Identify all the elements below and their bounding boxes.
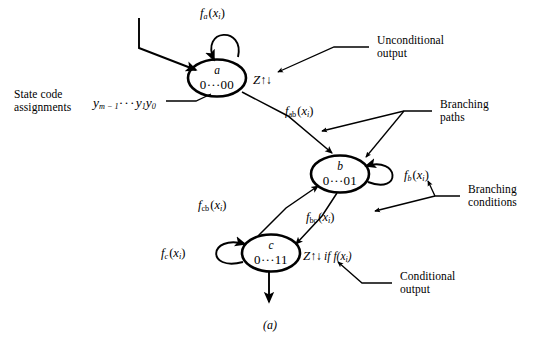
annotation-state-code-assignments-line1: State code bbox=[14, 88, 71, 101]
annotation-unconditional-output: Unconditional output bbox=[377, 34, 444, 60]
callout-line-conditional-output bbox=[338, 262, 392, 283]
callout-line-branching-paths-1 bbox=[322, 111, 432, 131]
state-code-var-dots: ··· bbox=[119, 95, 136, 110]
annotation-branching-paths: Branching paths bbox=[440, 98, 489, 124]
annotation-state-code-assignments: State code assignments bbox=[14, 88, 71, 114]
annotation-unconditional-output-line2: output bbox=[377, 47, 444, 60]
annotation-conditional-output: Conditional output bbox=[400, 270, 455, 296]
annotation-conditional-output-line1: Conditional bbox=[400, 270, 455, 283]
state-code-var-sub-last: 0 bbox=[152, 102, 156, 111]
annotation-unconditional-output-line1: Unconditional bbox=[377, 34, 444, 47]
annotation-branching-conditions-line1: Branching bbox=[468, 183, 517, 196]
state-c-output-arrows: ↑↓ bbox=[310, 249, 321, 263]
transition-label-b-to-c: fbc (xi) bbox=[306, 210, 334, 226]
state-c-code: 0···11 bbox=[244, 252, 298, 268]
transition-label-a-to-b: fab (xi) bbox=[285, 104, 313, 120]
figure-caption: (a) bbox=[263, 318, 277, 333]
diagram-canvas bbox=[0, 0, 542, 352]
annotation-branching-conditions-line2: conditions bbox=[468, 196, 517, 209]
state-a-output: Z↑↓ bbox=[253, 72, 271, 88]
self-loop-c bbox=[216, 242, 245, 263]
state-b-code: 0···01 bbox=[313, 173, 367, 189]
state-diagram-figure: a 0···00 b 0···01 c 0···11 Z↑↓ Z↑↓ if f(… bbox=[0, 0, 542, 352]
callout-line-branching-paths-2 bbox=[366, 111, 404, 157]
annotation-conditional-output-line2: output bbox=[400, 283, 455, 296]
annotation-branching-paths-line2: paths bbox=[440, 111, 489, 124]
callout-line-branching-conditions-1 bbox=[428, 181, 460, 196]
annotation-branching-paths-line1: Branching bbox=[440, 98, 489, 111]
state-c-name: c bbox=[261, 239, 281, 251]
transition-label-c-to-b: fcb (xi) bbox=[198, 198, 226, 214]
state-a-output-arrows: ↑↓ bbox=[260, 73, 271, 87]
state-a-code: 0···00 bbox=[190, 77, 244, 93]
state-a-name: a bbox=[207, 64, 227, 76]
self-loop-a bbox=[211, 35, 238, 60]
state-code-var-sub-first: m − 1 bbox=[99, 102, 119, 111]
state-code-variable-expression: ym − 1···y1y0 bbox=[93, 95, 156, 112]
state-b-name: b bbox=[330, 160, 350, 172]
annotation-state-code-assignments-line2: assignments bbox=[14, 101, 71, 114]
entry-arrow-state-a bbox=[139, 18, 196, 70]
callout-line-branching-conditions-2 bbox=[375, 196, 435, 211]
self-loop-label-c: fc (xi) bbox=[161, 246, 185, 262]
self-loop-label-b: fb (xi) bbox=[404, 168, 429, 184]
annotation-branching-conditions: Branching conditions bbox=[468, 183, 517, 209]
self-loop-label-a: fa (xi) bbox=[200, 6, 225, 22]
callout-line-unconditional-output bbox=[278, 47, 369, 72]
state-c-output: Z↑↓ if f(xi) bbox=[303, 248, 352, 264]
state-c-output-fn: f bbox=[333, 250, 336, 262]
state-c-output-if: if bbox=[324, 250, 330, 262]
transition-a-to-b bbox=[242, 92, 332, 153]
